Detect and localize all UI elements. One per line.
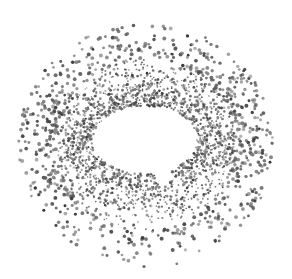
dot <box>230 95 233 98</box>
dot <box>85 190 87 192</box>
dot <box>219 165 221 167</box>
dot <box>242 128 245 131</box>
dot <box>120 103 123 106</box>
dot <box>176 198 179 201</box>
dot <box>105 168 107 170</box>
dot <box>140 95 143 98</box>
dot <box>34 186 37 189</box>
dot <box>234 215 238 219</box>
dot <box>109 72 111 74</box>
dot <box>219 81 222 84</box>
dot <box>191 165 193 167</box>
dot <box>51 124 54 127</box>
dot <box>74 61 77 64</box>
dot <box>108 44 111 47</box>
dot <box>71 91 74 94</box>
dot <box>90 138 92 140</box>
dot <box>96 161 97 162</box>
dot <box>223 137 226 140</box>
dot <box>64 99 67 102</box>
dot <box>232 143 234 145</box>
dot <box>113 68 116 71</box>
dot <box>177 110 179 112</box>
dot <box>154 105 156 107</box>
dot <box>216 96 218 98</box>
dot <box>75 165 77 167</box>
dot <box>39 95 42 98</box>
dot <box>232 135 234 137</box>
dot <box>190 104 192 106</box>
dot <box>161 97 163 99</box>
dot <box>129 201 132 204</box>
dot <box>21 122 25 126</box>
dot <box>191 186 193 188</box>
dot <box>122 206 125 209</box>
dot <box>243 149 246 152</box>
dot <box>123 93 126 96</box>
dot <box>109 106 111 108</box>
dot <box>200 100 202 102</box>
dot <box>118 208 121 211</box>
dot <box>126 78 128 80</box>
dot <box>130 174 132 176</box>
dot <box>48 144 52 148</box>
dot <box>66 74 70 78</box>
dot <box>208 95 209 96</box>
dot <box>121 89 124 92</box>
dot <box>57 133 60 136</box>
dot <box>113 36 117 40</box>
dot <box>147 188 149 190</box>
dot <box>193 47 197 51</box>
dot <box>234 116 237 119</box>
dot <box>209 185 211 187</box>
dot <box>269 132 272 135</box>
dot <box>114 103 116 105</box>
dot <box>218 235 221 238</box>
dot <box>145 98 147 100</box>
dot <box>238 185 241 188</box>
dot <box>51 112 55 116</box>
dot <box>235 80 238 83</box>
dot <box>137 199 139 201</box>
dot <box>142 183 144 185</box>
dot <box>54 224 57 227</box>
dot <box>121 191 123 193</box>
dot <box>69 156 71 158</box>
dot <box>205 77 208 80</box>
dot <box>46 185 50 189</box>
dot <box>37 114 40 117</box>
dot <box>185 194 187 196</box>
dot <box>36 102 40 106</box>
dot <box>117 89 120 92</box>
dot <box>39 191 42 194</box>
dot <box>88 206 90 208</box>
dot <box>69 179 72 182</box>
dot <box>195 191 197 193</box>
dot <box>209 133 211 135</box>
dot <box>195 75 197 77</box>
dot <box>227 138 229 140</box>
dot <box>149 173 151 175</box>
dot <box>211 149 213 151</box>
dot <box>125 177 127 179</box>
dot <box>152 69 154 71</box>
dot <box>157 94 159 96</box>
dot <box>119 215 121 217</box>
dot <box>263 159 267 163</box>
dot <box>98 112 101 115</box>
dot <box>92 147 94 149</box>
dot <box>59 142 61 144</box>
dot <box>156 103 159 106</box>
dot <box>198 172 201 175</box>
dot <box>83 136 86 139</box>
dot <box>133 201 134 202</box>
dot <box>209 143 210 144</box>
dot <box>222 158 225 161</box>
dot <box>211 69 214 72</box>
dot <box>118 169 121 172</box>
dot <box>175 262 178 265</box>
dot <box>222 173 224 175</box>
dot <box>218 160 219 161</box>
dot <box>143 59 145 61</box>
dot <box>71 127 73 129</box>
